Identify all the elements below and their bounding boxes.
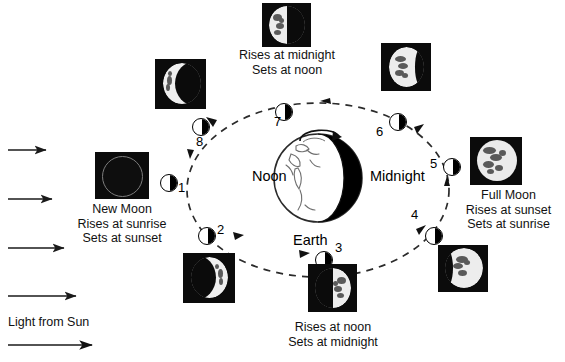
moon-marker-5-shadow [453,158,461,176]
moon-marker-4-shadow [435,227,443,245]
earth-rotation-arrow [300,130,342,142]
earth-globe [274,130,362,222]
caption-full-moon-sets: Sets at sunrise [452,217,565,232]
caption-first-quarter-rises: Rises at noon [257,320,409,335]
photo-first-quarter [308,264,357,312]
moon-phase-diagram: Noon Midnight Earth Light from Sun 1 2 3… [0,0,565,362]
moon-marker-2-shadow [208,227,216,245]
moon-marker-1-number: 1 [178,180,185,195]
moon-marker-3-number: 3 [335,240,342,255]
moon-marker-8-number: 8 [196,134,203,149]
moon-marker-7-shadow [285,103,293,121]
photo-waning-gibbous [381,43,431,91]
moon-marker-1 [160,174,178,192]
caption-full-moon-name: Full Moon [452,188,565,203]
moon-marker-7-number: 7 [274,114,281,129]
moon-marker-4-number: 4 [411,207,418,222]
moon-orbit-path [187,103,449,277]
caption-full-moon-rises: Rises at sunset [452,203,565,218]
moon-marker-5 [443,158,461,176]
label-light-from-sun: Light from Sun [8,315,89,329]
photo-last-quarter [262,3,311,47]
photo-full-moon [470,137,522,185]
label-noon: Noon [252,168,287,184]
label-earth: Earth [293,232,328,248]
moon-marker-2-number: 2 [217,222,224,237]
caption-new-moon-rises: Rises at sunrise [42,217,202,232]
label-midnight: Midnight [370,168,425,184]
caption-first-quarter: Rises at noon Sets at midnight [257,320,409,349]
caption-last-quarter: Rises at midnight Sets at noon [212,48,362,77]
photo-new-moon [95,152,149,199]
photo-waxing-gibbous [438,245,488,292]
caption-last-quarter-sets: Sets at noon [212,63,362,78]
caption-full-moon: Full Moon Rises at sunset Sets at sunris… [452,188,565,232]
caption-new-moon: New Moon Rises at sunrise Sets at sunset [42,202,202,246]
photo-waxing-crescent [183,253,235,303]
photo-waning-crescent [155,59,206,109]
moon-marker-6-shadow [399,113,407,131]
caption-first-quarter-sets: Sets at midnight [257,335,409,350]
moon-marker-1-shadow [170,174,178,192]
caption-last-quarter-rises: Rises at midnight [212,48,362,63]
moon-marker-6-number: 6 [376,124,383,139]
moon-marker-5-number: 5 [430,156,437,171]
caption-new-moon-name: New Moon [42,202,202,217]
moon-marker-4 [425,227,443,245]
moon-marker-6 [389,113,407,131]
caption-new-moon-sets: Sets at sunset [42,231,202,246]
